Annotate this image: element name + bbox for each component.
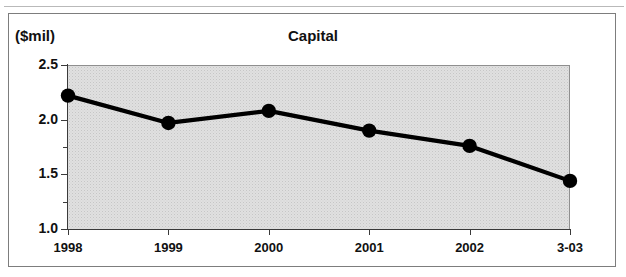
x-axis-tick-label: 1999 xyxy=(154,240,183,255)
plot-area-background xyxy=(68,65,570,229)
scanned-page: ($mil) Capital 1.01.52.02.5 199819992000… xyxy=(0,0,626,277)
y-axis-tick-minor xyxy=(63,92,68,93)
x-axis-tick xyxy=(570,229,571,235)
y-axis-tick-major xyxy=(61,229,68,230)
y-axis-tick-label: 2.0 xyxy=(39,111,58,127)
x-axis-tick-label: 3-03 xyxy=(557,240,583,255)
x-axis-tick xyxy=(269,229,270,235)
y-axis-tick-major xyxy=(61,174,68,175)
y-axis-tick-major xyxy=(61,65,68,66)
y-axis-tick-label: 2.5 xyxy=(39,56,58,72)
x-axis-tick-label: 1998 xyxy=(54,240,83,255)
x-axis-tick-label: 2000 xyxy=(254,240,283,255)
y-axis-tick-minor xyxy=(63,147,68,148)
x-axis-tick-label: 2001 xyxy=(355,240,384,255)
y-axis-tick-minor xyxy=(63,202,68,203)
y-axis-tick-major xyxy=(61,120,68,121)
y-axis-tick-label: 1.5 xyxy=(39,165,58,181)
plot-region: 1.01.52.02.5 199819992000200120023-03 xyxy=(0,0,626,277)
x-axis-tick xyxy=(68,229,69,235)
x-axis-line xyxy=(67,229,571,230)
x-axis-tick xyxy=(470,229,471,235)
x-axis-tick xyxy=(168,229,169,235)
x-axis-tick-label: 2002 xyxy=(455,240,484,255)
x-axis-tick xyxy=(369,229,370,235)
y-axis-tick-label: 1.0 xyxy=(39,220,58,236)
